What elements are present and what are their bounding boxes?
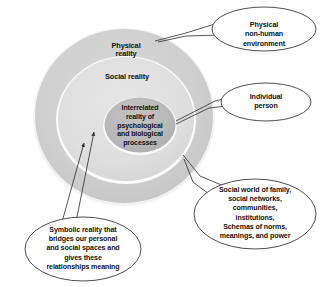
diagram-canvas: Physical reality Social reality Interrel… bbox=[0, 0, 320, 287]
callout-label-individual-person: Individual person bbox=[230, 92, 302, 111]
callout-label-social-world: Social world of family, social networks,… bbox=[200, 186, 310, 241]
ring-label-interrelated-reality: Interrelated reality of psychological an… bbox=[104, 104, 176, 148]
callout-label-symbolic-reality: Symbolic reality that bridges our person… bbox=[28, 226, 138, 272]
ring-label-social-reality: Social reality bbox=[82, 73, 172, 81]
callout-label-physical-environment: Physical non-human environment bbox=[222, 20, 306, 48]
ring-label-physical-reality: Physical reality bbox=[88, 42, 164, 59]
